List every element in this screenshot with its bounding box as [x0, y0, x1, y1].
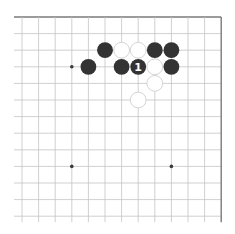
black-stone-disc: [114, 59, 130, 75]
go-board[interactable]: 1: [0, 0, 235, 234]
white-stone[interactable]: [147, 59, 163, 75]
white-stone[interactable]: [130, 42, 146, 58]
black-stone-disc: [164, 59, 180, 75]
white-stone-disc: [130, 92, 146, 108]
black-stone[interactable]: [114, 59, 130, 75]
black-stone[interactable]: [164, 59, 180, 75]
white-stone[interactable]: [147, 76, 163, 92]
black-stone[interactable]: [147, 42, 163, 58]
black-stone-disc: [81, 59, 97, 75]
white-stone-disc: [114, 42, 130, 58]
white-stone[interactable]: [114, 42, 130, 58]
black-stone[interactable]: [81, 59, 97, 75]
black-stone-labeled[interactable]: 1: [130, 59, 146, 75]
black-stone-disc: [97, 42, 113, 58]
white-stone-disc: [147, 59, 163, 75]
black-stone-disc: [164, 42, 180, 58]
move-number-label: 1: [134, 61, 142, 74]
star-point: [170, 165, 174, 169]
white-stone-disc: [147, 76, 163, 92]
stones-layer: 1: [81, 42, 180, 108]
white-stone[interactable]: [130, 92, 146, 108]
black-stone[interactable]: [164, 42, 180, 58]
star-point: [70, 165, 74, 169]
white-stone-disc: [130, 42, 146, 58]
black-stone[interactable]: [97, 42, 113, 58]
star-point: [70, 65, 74, 69]
black-stone-disc: [147, 42, 163, 58]
